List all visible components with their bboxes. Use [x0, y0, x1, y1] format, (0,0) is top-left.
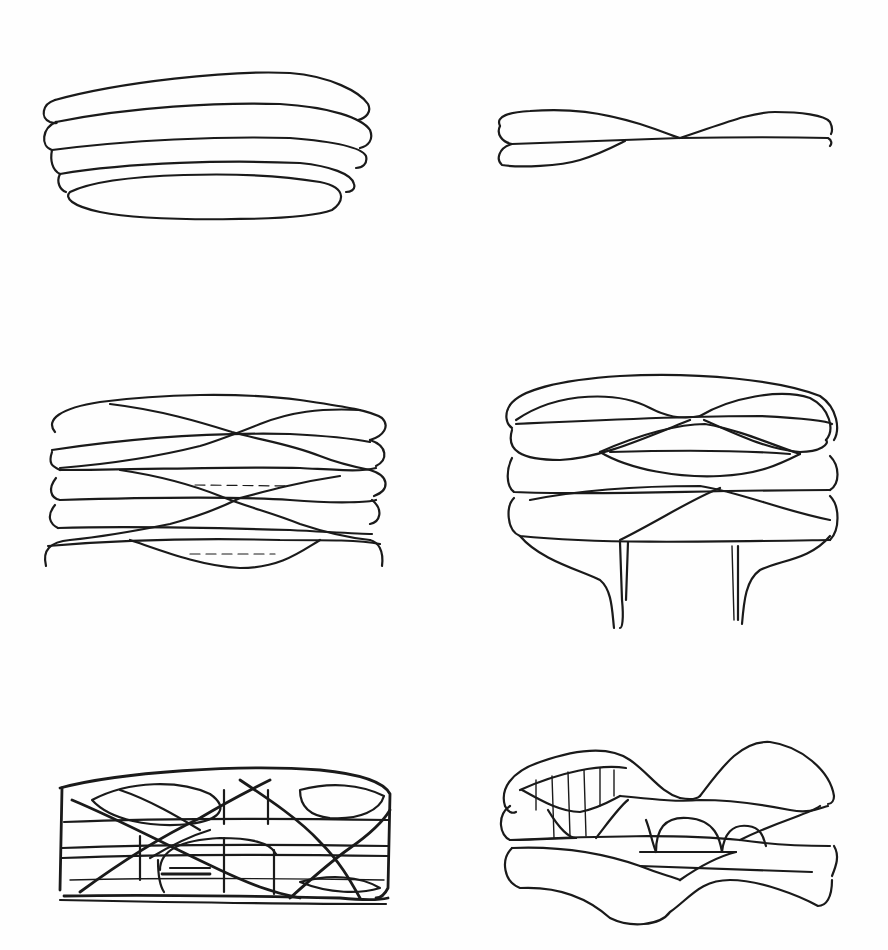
sketch-sheet: [0, 0, 888, 950]
sketch-undulating-arches: [0, 0, 888, 950]
